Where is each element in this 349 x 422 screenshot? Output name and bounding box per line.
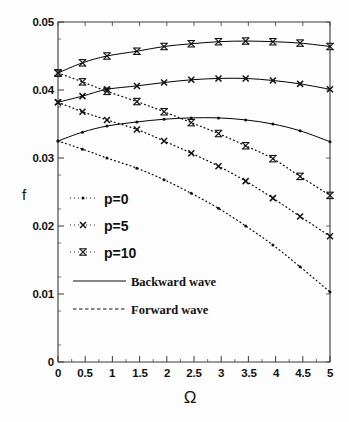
x-tick-label-4.5: 4.5 <box>289 367 317 379</box>
x-tick-label-4: 4 <box>262 367 290 379</box>
x-tick-label-2: 2 <box>153 367 181 379</box>
y-tick-label-0.05: 0.05 <box>10 16 54 28</box>
series-backward-p10 <box>54 38 334 76</box>
x-tick-label-1: 1 <box>98 367 126 379</box>
series-forward-p0 <box>57 140 332 294</box>
x-tick-label-3: 3 <box>207 367 235 379</box>
series-backward-p5 <box>55 75 333 105</box>
y-axis-title: f <box>12 186 36 203</box>
y-tick-label-0.03: 0.03 <box>10 152 54 164</box>
x-tick-label-3.5: 3.5 <box>235 367 263 379</box>
legend-label-p0: p=0 <box>104 191 129 207</box>
y-tick-label-0.01: 0.01 <box>10 288 54 300</box>
x-tick-label-1.5: 1.5 <box>126 367 154 379</box>
chart-figure: 0.05 0.04 0.03 0.02 0.01 0 0 0.5 1 1.5 2… <box>0 0 349 422</box>
legend-label-p5: p=5 <box>104 218 129 234</box>
series-forward-p10 <box>54 70 334 199</box>
legend-label-backward-wave: Backward wave <box>131 275 216 290</box>
y-tick-label-0.02: 0.02 <box>10 220 54 232</box>
x-tick-label-0: 0 <box>44 367 72 379</box>
x-tick-label-0.5: 0.5 <box>71 367 99 379</box>
x-tick-label-2.5: 2.5 <box>180 367 208 379</box>
legend-label-forward-wave: Forward wave <box>131 303 208 318</box>
x-axis-title: Ω <box>165 388 215 408</box>
legend-label-p10: p=10 <box>104 245 136 261</box>
y-tick-label-0.04: 0.04 <box>10 84 54 96</box>
x-tick-label-5: 5 <box>316 367 344 379</box>
